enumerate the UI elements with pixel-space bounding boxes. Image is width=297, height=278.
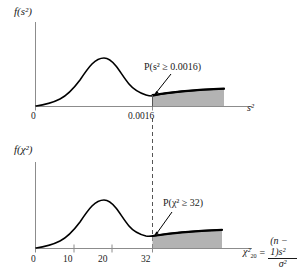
bottom-tick-label-20: 20 xyxy=(98,255,108,265)
statistics-figure: f(s²) 0 0.0016 P(s² ≥ 0.0016) s² f(χ²) 0… xyxy=(0,0,297,278)
top-x-axis-label: s² xyxy=(247,103,254,113)
top-y-axis-label: f(s²) xyxy=(14,6,32,17)
top-probability-annotation: P(s² ≥ 0.0016) xyxy=(144,62,201,72)
chi-square-statistic-symbol: χ²20 xyxy=(243,246,257,259)
bottom-annotation-arrow-shaft xyxy=(157,212,172,233)
bottom-tick-label-32: 32 xyxy=(141,255,151,265)
formula-fraction: (n − 1)s² σ² xyxy=(268,236,297,270)
top-tick-label-0: 0 xyxy=(31,112,36,122)
bottom-tick-label-0: 0 xyxy=(31,255,36,265)
bottom-panel-group xyxy=(36,162,253,253)
formula-numerator: (n − 1)s² xyxy=(268,236,297,257)
chi-square-df-subscript: 20 xyxy=(250,252,256,259)
chi-square-formula: χ²20 = (n − 1)s² σ² xyxy=(243,236,297,270)
top-tick-label-0016: 0.0016 xyxy=(128,112,154,122)
formula-equals-sign: = xyxy=(260,247,266,258)
top-annotation-arrow-shaft xyxy=(156,74,171,93)
bottom-y-axis-label: f(χ²) xyxy=(14,144,33,155)
formula-denominator: σ² xyxy=(277,259,289,270)
bottom-tick-label-10: 10 xyxy=(63,255,73,265)
bottom-probability-annotation: P(χ² ≥ 32) xyxy=(163,198,203,208)
